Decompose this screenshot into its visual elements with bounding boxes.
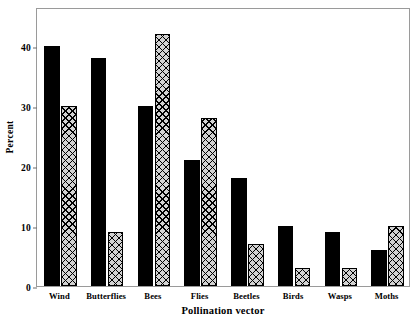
x-axis-tick-label-beetles: Beetles <box>233 291 259 301</box>
y-axis-title: Percent <box>5 101 15 173</box>
bar-moths-series-2 <box>388 226 404 286</box>
y-axis-tick-mark <box>33 288 37 289</box>
bar-beetles-series-2 <box>248 244 264 286</box>
x-axis-tick-label-wasps: Wasps <box>328 291 352 301</box>
x-axis-tick-label-bees: Bees <box>144 291 161 301</box>
bar-series-container <box>37 9 409 286</box>
bar-chart-figure: Percent 010203040 WindButterfliesBeesFli… <box>0 0 419 327</box>
bar-birds-series-2 <box>295 268 311 286</box>
x-axis-tick-label-moths: Moths <box>375 291 399 301</box>
bar-wind-series-2 <box>61 106 77 286</box>
bar-wasps-series-2 <box>342 268 358 286</box>
bar-wasps-series-1 <box>325 232 341 286</box>
bar-bees-series-1 <box>138 106 154 286</box>
bar-wind-series-1 <box>44 46 60 286</box>
bar-birds-series-1 <box>278 226 294 286</box>
bar-moths-series-1 <box>371 250 387 286</box>
x-axis-tick-label-butterflies: Butterflies <box>86 291 126 301</box>
x-axis-tick-label-flies: Flies <box>191 291 209 301</box>
bar-flies-series-2 <box>201 118 217 286</box>
x-axis-tick-label-birds: Birds <box>283 291 304 301</box>
bar-butterflies-series-2 <box>108 232 124 286</box>
plot-area: 010203040 <box>36 8 410 287</box>
bar-beetles-series-1 <box>231 178 247 286</box>
x-axis-tick-label-wind: Wind <box>49 291 70 301</box>
x-axis-title: Pollination vector <box>36 305 410 316</box>
bar-flies-series-1 <box>184 160 200 286</box>
bar-butterflies-series-1 <box>91 58 107 286</box>
bar-bees-series-2 <box>155 34 171 286</box>
